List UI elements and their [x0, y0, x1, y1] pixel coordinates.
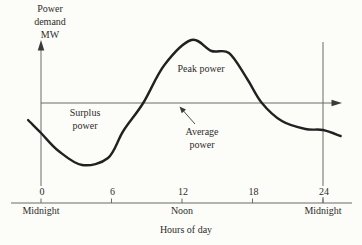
x-tick-sublabel: Midnight	[14, 205, 68, 216]
annotation-surplus-power: Surplus power	[60, 106, 110, 132]
x-tick-sublabel: Midnight	[296, 205, 350, 216]
y-axis-arrowhead-icon	[38, 40, 45, 51]
x-tick-label: 24	[311, 186, 337, 197]
annotation-peak-power: Peak power	[176, 62, 226, 75]
average-annotation-arrow-line	[184, 111, 196, 124]
y-axis-title: Power demand MW	[20, 2, 80, 41]
y-axis-title-line3: MW	[20, 28, 80, 41]
annotation-average-power: Average power	[177, 125, 227, 151]
x-tick-label: 18	[241, 186, 267, 197]
y-axis-title-line1: Power	[20, 2, 80, 15]
y-axis-title-line2: demand	[20, 15, 80, 28]
x-tick-sublabel: Noon	[155, 205, 209, 216]
x-tick-label: 0	[29, 186, 55, 197]
power-demand-figure: Power demand MW Surplus power Peak power…	[0, 0, 362, 245]
x-tick-label: 12	[170, 186, 196, 197]
x-axis-title: Hours of day	[146, 223, 226, 236]
average-line-arrowhead-icon	[332, 100, 343, 107]
x-tick-label: 6	[100, 186, 126, 197]
